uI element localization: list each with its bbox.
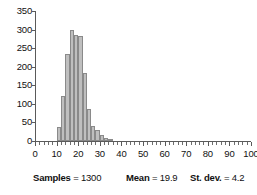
x-axis-tick-mark-minor — [173, 142, 174, 145]
x-axis-tick-mark-minor — [191, 142, 192, 145]
x-axis-tick-mark-minor — [152, 142, 153, 145]
y-axis-tick-mark — [32, 104, 35, 105]
x-axis-tick-mark-major — [229, 142, 230, 146]
x-axis-tick-mark-minor — [169, 142, 170, 145]
x-axis-tick-mark-minor — [147, 142, 148, 145]
x-axis-tick-mark-minor — [203, 142, 204, 145]
y-axis-tick-mark — [32, 67, 35, 68]
stat-stdev-value: 4.2 — [232, 172, 245, 183]
x-axis-tick-mark-minor — [234, 142, 235, 145]
histogram-bar — [108, 139, 112, 141]
x-axis-tick-mark-minor — [242, 142, 243, 145]
x-axis-tick-mark-major — [100, 142, 101, 146]
x-axis-tick-mark-minor — [216, 142, 217, 145]
stat-mean-separator: = — [152, 172, 157, 183]
plot-area — [35, 11, 251, 142]
x-axis-tick-label: 100 — [243, 148, 257, 159]
x-axis-tick-mark-minor — [195, 142, 196, 145]
stat-mean-label: Mean — [126, 172, 149, 183]
x-axis-tick-mark-minor — [182, 142, 183, 145]
x-axis-tick-mark-minor — [61, 142, 62, 145]
y-axis-tick-labels: 050100150200250300350 — [2, 11, 32, 142]
x-axis-tick-mark-minor — [48, 142, 49, 145]
statistics-row: Samples = 1300 Mean = 19.9 St. dev. = 4.… — [0, 170, 257, 186]
stat-samples-separator: = — [73, 172, 78, 183]
y-axis-tick-label: 150 — [2, 81, 32, 91]
x-axis-tick-mark-major — [186, 142, 187, 146]
histogram-screenshot: 050100150200250300350 010203040506070809… — [0, 0, 257, 195]
x-axis-tick-mark-minor — [126, 142, 127, 145]
x-axis-tick-mark-major — [143, 142, 144, 146]
x-axis-tick-mark-minor — [44, 142, 45, 145]
y-axis-tick-mark — [32, 11, 35, 12]
x-axis-tick-mark-minor — [225, 142, 226, 145]
x-axis-tick-label: 60 — [160, 148, 170, 159]
x-axis-tick-mark-minor — [74, 142, 75, 145]
x-axis-tick-label: 0 — [32, 148, 37, 159]
x-axis-tick-mark-minor — [52, 142, 53, 145]
stat-samples-label: Samples — [33, 172, 71, 183]
y-axis-tick-mark — [32, 85, 35, 86]
x-axis-tick-mark-minor — [104, 142, 105, 145]
x-axis-tick-label: 10 — [52, 148, 62, 159]
x-axis-tick-mark-minor — [39, 142, 40, 145]
x-axis-tick-mark-minor — [178, 142, 179, 145]
x-axis-tick-mark-major — [121, 142, 122, 146]
x-axis-tick-mark-major — [208, 142, 209, 146]
x-axis-tick-label: 20 — [73, 148, 83, 159]
x-axis-tick-label: 30 — [95, 148, 105, 159]
x-axis-tick-labels: 0102030405060708090100 — [35, 148, 251, 161]
bar-series — [35, 11, 251, 141]
stat-mean: Mean = 19.9 — [126, 172, 177, 184]
y-axis-tick-label: 200 — [2, 62, 32, 72]
stat-stdev-separator: = — [224, 172, 229, 183]
x-axis-tick-mark-minor — [247, 142, 248, 145]
x-axis-tick-label: 80 — [203, 148, 213, 159]
stat-stdev-label: St. dev. — [190, 172, 221, 183]
x-axis-tick-mark-minor — [91, 142, 92, 145]
x-axis-tick-mark-minor — [83, 142, 84, 145]
x-axis-tick-label: 90 — [224, 148, 234, 159]
x-axis-tick-mark-minor — [130, 142, 131, 145]
histogram-chart: 050100150200250300350 010203040506070809… — [0, 0, 257, 168]
x-axis-tick-mark-minor — [139, 142, 140, 145]
x-axis-tick-mark-minor — [134, 142, 135, 145]
x-axis-tick-mark-minor — [65, 142, 66, 145]
y-axis-tick-label: 350 — [2, 6, 32, 16]
x-axis-tick-mark-minor — [117, 142, 118, 145]
x-axis-tick-mark-minor — [87, 142, 88, 145]
x-axis-tick-mark-minor — [160, 142, 161, 145]
stat-samples-value: 1300 — [81, 172, 101, 183]
stat-stdev: St. dev. = 4.2 — [190, 172, 244, 184]
x-axis-tick-label: 70 — [181, 148, 191, 159]
stat-mean-value: 19.9 — [160, 172, 178, 183]
x-axis-tick-mark-minor — [238, 142, 239, 145]
x-axis-tick-mark-major — [165, 142, 166, 146]
x-axis-tick-mark-minor — [221, 142, 222, 145]
x-axis-tick-mark-minor — [113, 142, 114, 145]
y-axis-tick-mark — [32, 122, 35, 123]
y-axis-tick-mark — [32, 30, 35, 31]
x-axis-tick-mark-major — [78, 142, 79, 146]
x-axis-tick-label: 40 — [116, 148, 126, 159]
y-axis-tick-mark — [32, 48, 35, 49]
y-axis-tick-label: 250 — [2, 43, 32, 53]
x-axis-tick-mark-major — [251, 142, 252, 146]
x-axis-tick-mark-minor — [70, 142, 71, 145]
y-axis-tick-label: 100 — [2, 99, 32, 109]
x-axis-tick-mark-minor — [108, 142, 109, 145]
x-axis-tick-label: 50 — [138, 148, 148, 159]
x-axis-tick-mark-minor — [212, 142, 213, 145]
y-axis-tick-label: 300 — [2, 25, 32, 35]
x-axis-tick-mark-minor — [199, 142, 200, 145]
y-axis-tick-label: 50 — [2, 118, 32, 128]
x-axis-tick-mark-major — [35, 142, 36, 146]
x-axis-tick-mark-minor — [156, 142, 157, 145]
x-axis-tick-mark-minor — [95, 142, 96, 145]
stat-samples: Samples = 1300 — [33, 172, 101, 184]
x-axis-tick-mark-major — [57, 142, 58, 146]
y-axis-tick-label: 0 — [2, 136, 32, 146]
